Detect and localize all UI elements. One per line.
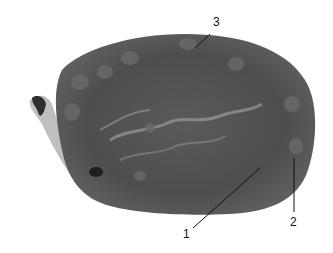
tissue-section-image bbox=[0, 0, 333, 253]
micrograph-figure: 1 2 3 bbox=[0, 0, 333, 253]
label-3: 3 bbox=[213, 16, 220, 28]
label-1: 1 bbox=[183, 228, 190, 240]
label-2: 2 bbox=[290, 216, 297, 228]
